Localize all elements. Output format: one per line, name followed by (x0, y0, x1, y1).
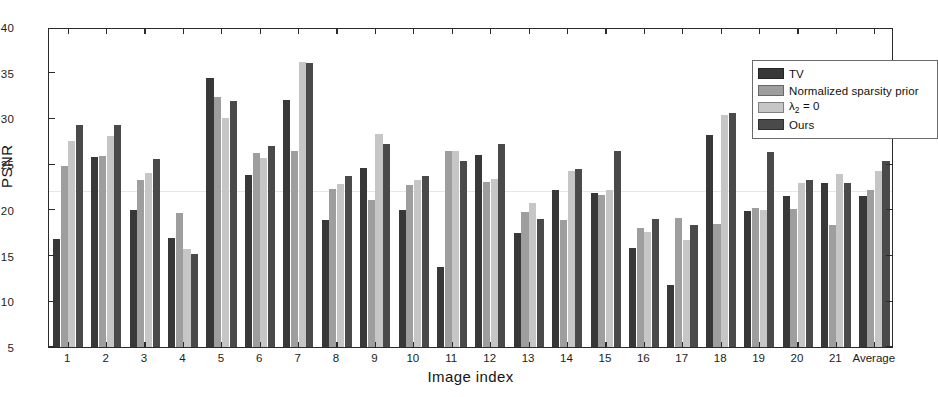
bar (153, 159, 160, 347)
bar (437, 267, 444, 347)
bar (114, 125, 121, 347)
x-tick-mark (759, 29, 760, 34)
x-tick-mark (106, 342, 107, 347)
bar (829, 225, 836, 348)
bar (260, 158, 267, 347)
x-tick-mark (874, 29, 875, 34)
x-tick-mark (721, 29, 722, 34)
legend-label: Normalized sparsity prior (789, 85, 919, 97)
bar (514, 233, 521, 347)
x-tick-mark (375, 29, 376, 34)
x-tick-mark (183, 29, 184, 34)
x-tick-label: 9 (371, 352, 377, 364)
bar (460, 161, 467, 347)
x-tick-mark (260, 29, 261, 34)
y-tick-mark (49, 164, 55, 165)
bar (721, 115, 728, 347)
bar (667, 285, 674, 347)
x-tick-label: 12 (483, 352, 496, 364)
bar (875, 171, 882, 347)
bar (859, 196, 866, 347)
bar (760, 210, 767, 347)
bar (130, 210, 137, 347)
bar (752, 208, 759, 347)
x-tick-mark (682, 29, 683, 34)
x-tick-label: 13 (522, 352, 535, 364)
bar (706, 135, 713, 347)
x-tick-label: 20 (791, 352, 804, 364)
bar (445, 151, 452, 347)
y-tick-label: 25 (0, 159, 14, 171)
x-tick-label: 8 (333, 352, 339, 364)
x-tick-mark (836, 342, 837, 347)
bar (844, 183, 851, 347)
legend-swatch (758, 119, 784, 130)
x-tick-mark (106, 29, 107, 34)
y-tick-label: 40 (0, 22, 14, 34)
bar (368, 200, 375, 347)
x-tick-mark (298, 29, 299, 34)
bar (383, 144, 390, 347)
bar (521, 212, 528, 347)
x-tick-mark (529, 29, 530, 34)
y-tick-mark (49, 255, 55, 256)
x-tick-label: 16 (637, 352, 650, 364)
bar (675, 218, 682, 347)
x-tick-label: 2 (102, 352, 108, 364)
bar (337, 184, 344, 347)
x-tick-mark (183, 342, 184, 347)
legend-swatch (758, 102, 784, 113)
x-tick-mark (452, 342, 453, 347)
bar (806, 180, 813, 347)
x-tick-mark (567, 29, 568, 34)
y-tick-mark (886, 209, 892, 210)
x-tick-mark (874, 342, 875, 347)
bar (683, 240, 690, 347)
legend-label: TV (789, 68, 804, 80)
bar (767, 152, 774, 347)
legend-item: TV (758, 65, 932, 82)
bar (798, 183, 805, 347)
legend-item: λ2 = 0 (758, 99, 932, 116)
bar (91, 157, 98, 347)
x-tick-label: 14 (560, 352, 573, 364)
x-tick-mark (413, 342, 414, 347)
guide-line (49, 191, 892, 192)
bar (61, 166, 68, 347)
x-tick-label: 19 (752, 352, 765, 364)
x-tick-label: 4 (179, 352, 185, 364)
y-tick-mark (49, 72, 55, 73)
bar (629, 248, 636, 347)
bar (475, 155, 482, 347)
x-tick-mark (144, 29, 145, 34)
x-tick-mark (644, 29, 645, 34)
bar (568, 171, 575, 347)
bar (76, 125, 83, 347)
bar (422, 176, 429, 347)
bar (744, 211, 751, 347)
bar (821, 183, 828, 347)
bar (268, 146, 275, 347)
bar (230, 101, 237, 347)
bar (591, 193, 598, 348)
bar (360, 168, 367, 347)
x-tick-mark (797, 29, 798, 34)
x-tick-mark (759, 342, 760, 347)
bar (168, 238, 175, 347)
x-tick-mark (221, 29, 222, 34)
x-tick-mark (644, 342, 645, 347)
y-tick-mark (886, 301, 892, 302)
bar (614, 151, 621, 347)
x-tick-mark (260, 342, 261, 347)
x-tick-mark (605, 342, 606, 347)
bar (867, 190, 874, 347)
x-tick-mark (336, 342, 337, 347)
bar (644, 232, 651, 347)
x-tick-label: 10 (406, 352, 419, 364)
x-tick-mark (144, 342, 145, 347)
bar (575, 169, 582, 347)
y-tick-mark (49, 118, 55, 119)
chart-legend: TVNormalized sparsity priorλ2 = 0Ours (752, 60, 938, 139)
bar (690, 225, 697, 348)
